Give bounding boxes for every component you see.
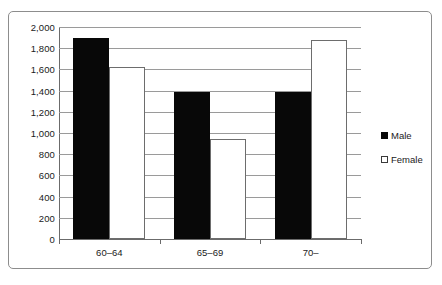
bar-male-1[interactable] (73, 38, 109, 239)
bar-male-3[interactable] (275, 92, 311, 239)
x-axis-label-1: 60–64 (96, 247, 122, 258)
legend-item-male[interactable]: Male (381, 130, 423, 141)
x-tick-2 (260, 239, 261, 244)
y-tick-label-2000: 2,000 (11, 22, 55, 33)
y-tick-label-1400: 1,400 (11, 85, 55, 96)
chart-legend: MaleFemale (381, 130, 423, 178)
x-tick-1 (160, 239, 161, 244)
x-tick-0 (59, 239, 60, 244)
x-axis-label-3: 70– (303, 247, 319, 258)
bar-group-2 (160, 27, 261, 239)
bar-female-3[interactable] (311, 40, 347, 239)
legend-swatch-male-icon (381, 132, 388, 139)
y-tick-label-800: 800 (11, 149, 55, 160)
legend-swatch-female-icon (381, 156, 388, 163)
legend-item-female[interactable]: Female (381, 154, 423, 165)
chart-frame: 02004006008001,0001,2001,4001,6001,8002,… (8, 11, 432, 269)
axis-baseline (59, 239, 361, 240)
bar-group-1 (59, 27, 160, 239)
x-axis-label-2: 65–69 (197, 247, 223, 258)
bar-group-3 (260, 27, 361, 239)
y-tick-label-1200: 1,200 (11, 106, 55, 117)
y-tick-label-1600: 1,600 (11, 64, 55, 75)
bar-female-2[interactable] (210, 139, 246, 239)
y-tick-label-200: 200 (11, 212, 55, 223)
bar-female-1[interactable] (109, 67, 145, 239)
legend-label-female: Female (391, 154, 423, 165)
plot-area (59, 27, 361, 239)
y-tick-label-1000: 1,000 (11, 128, 55, 139)
bar-male-2[interactable] (174, 92, 210, 239)
x-tick-3 (361, 239, 362, 244)
y-tick-label-1800: 1,800 (11, 43, 55, 54)
legend-label-male: Male (391, 130, 412, 141)
y-axis-tick-labels: 02004006008001,0001,2001,4001,6001,8002,… (9, 27, 55, 239)
y-tick-label-600: 600 (11, 170, 55, 181)
y-tick-label-0: 0 (11, 234, 55, 245)
y-tick-label-400: 400 (11, 191, 55, 202)
